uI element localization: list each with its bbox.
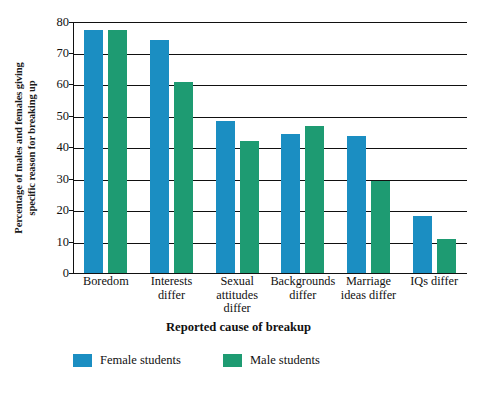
y-tick-label-20: 20 xyxy=(43,204,69,216)
bar-male xyxy=(437,239,456,274)
y-tick-label-50: 50 xyxy=(43,110,69,122)
y-tick-label-60: 60 xyxy=(43,78,69,90)
bar-male xyxy=(240,141,259,273)
bar-series-container xyxy=(74,23,467,273)
bar-male xyxy=(174,82,193,273)
x-category-label-line: differ xyxy=(196,302,278,316)
y-tick-label-10: 10 xyxy=(43,236,69,248)
legend-label: Female students xyxy=(100,353,181,368)
bar-group xyxy=(205,23,271,273)
bar-group xyxy=(337,23,403,273)
x-axis-category-labels: BoredomInterestsdifferSexualattitudesdif… xyxy=(73,275,467,319)
bar-group xyxy=(140,23,206,273)
y-axis-title-line-2: specific reason for breaking up xyxy=(25,62,38,233)
chart-legend: Female studentsMale students xyxy=(73,352,403,372)
y-tick-label-40: 40 xyxy=(43,141,69,153)
bar-male xyxy=(305,126,324,273)
legend-label: Male students xyxy=(250,353,320,368)
legend-item-female-students: Female students xyxy=(73,352,181,368)
y-tick-label-70: 70 xyxy=(43,47,69,59)
bar-female xyxy=(347,136,366,273)
legend-item-male-students: Male students xyxy=(223,352,320,368)
x-axis-title: Reported cause of breakup xyxy=(0,320,477,335)
y-tick-label-30: 30 xyxy=(43,173,69,185)
plot-area xyxy=(73,22,467,273)
y-axis-title: Percentage of males and females giving s… xyxy=(8,22,42,274)
legend-swatch-icon xyxy=(73,354,92,367)
legend-swatch-icon xyxy=(223,354,242,367)
bar-female xyxy=(84,30,103,273)
x-category-label: IQs differ xyxy=(393,275,475,289)
bar-male xyxy=(108,30,127,273)
y-tick-label-80: 80 xyxy=(43,16,69,28)
y-axis-title-line-1: Percentage of males and females giving xyxy=(12,62,25,233)
bar-female xyxy=(413,216,432,273)
y-axis-tick-labels: 80 70 60 50 40 30 20 10 0 xyxy=(41,0,69,396)
bar-female xyxy=(281,134,300,273)
bar-group xyxy=(271,23,337,273)
bar-group xyxy=(74,23,140,273)
x-category-label-line: ideas differ xyxy=(328,289,410,303)
bar-chart-figure: Percentage of males and females giving s… xyxy=(0,0,477,396)
bar-group xyxy=(402,23,468,273)
bar-female xyxy=(150,40,169,273)
x-category-label-line: IQs differ xyxy=(393,275,475,289)
bar-male xyxy=(371,181,390,273)
bar-female xyxy=(216,121,235,273)
